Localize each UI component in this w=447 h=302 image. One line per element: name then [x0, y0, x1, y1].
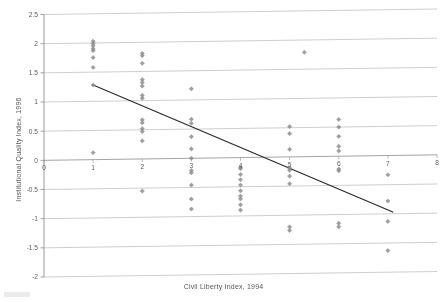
gridline [44, 272, 437, 278]
data-point [140, 121, 144, 125]
gridlines [44, 9, 437, 277]
data-point [91, 55, 95, 59]
data-point [238, 172, 242, 176]
scan-artifact [4, 292, 30, 297]
x-tick-label: 5 [288, 161, 292, 168]
y-tick-label: 0.5 [29, 128, 38, 135]
x-tick-label: 8 [435, 159, 439, 166]
data-point [288, 174, 292, 178]
data-point [238, 178, 242, 182]
data-point [140, 189, 144, 193]
data-point [337, 134, 341, 138]
tick-labels: 2.521.510.50-0.5-1-1.5-2012345678 [27, 11, 440, 281]
gridline [44, 67, 437, 73]
trend-line [93, 85, 393, 212]
data-point [386, 249, 390, 253]
x-tick-label: 7 [386, 160, 390, 167]
data-point [91, 151, 95, 155]
trendline [93, 85, 393, 212]
data-point [140, 139, 144, 143]
y-tick-label: 1 [34, 98, 38, 105]
scatter-chart: 2.521.510.50-0.5-1-1.5-2012345678 Civil … [0, 0, 447, 302]
axis-lines [41, 15, 438, 278]
data-points [91, 39, 390, 253]
data-point [189, 87, 193, 91]
data-point [91, 83, 95, 87]
data-point [386, 199, 390, 203]
data-point [189, 117, 193, 121]
plot-area: 2.521.510.50-0.5-1-1.5-2012345678 [0, 0, 447, 302]
data-point [288, 182, 292, 186]
data-point [189, 147, 193, 151]
data-point [302, 50, 306, 54]
x-tick-label: 1 [91, 164, 95, 171]
y-axis-title: Institutional Quality Index, 1996 [15, 80, 22, 220]
data-point [288, 131, 292, 135]
data-point [288, 228, 292, 232]
gridline [44, 213, 437, 219]
y-tick-label: -1 [32, 215, 38, 222]
x-tick-label: 0 [42, 164, 46, 171]
x-tick-label: 4 [239, 162, 243, 169]
gridline [44, 97, 437, 103]
data-point [288, 147, 292, 151]
y-tick-label: 2 [34, 40, 38, 47]
x-tick-label: 2 [140, 163, 144, 170]
data-point [189, 207, 193, 211]
data-point [337, 149, 341, 153]
x-tick-label: 6 [337, 160, 341, 167]
data-point [91, 65, 95, 69]
data-point [337, 125, 341, 129]
data-point [238, 208, 242, 212]
y-tick-label: 1.5 [29, 69, 38, 76]
data-point [189, 197, 193, 201]
data-point [189, 156, 193, 160]
data-point [238, 189, 242, 193]
data-point [140, 61, 144, 65]
data-point [189, 121, 193, 125]
x-tick-label: 3 [190, 162, 194, 169]
x-axis-title: Civil Liberty Index, 1994 [0, 283, 447, 290]
gridline [44, 242, 437, 248]
data-point [238, 197, 242, 201]
data-point [189, 135, 193, 139]
y-tick-label: 2.5 [29, 11, 38, 18]
data-point [337, 225, 341, 229]
data-point [386, 219, 390, 223]
gridline [44, 126, 437, 132]
gridline [44, 38, 437, 44]
data-point [189, 183, 193, 187]
data-point [386, 173, 390, 177]
y-tick-label: -2 [32, 273, 38, 280]
data-point [337, 117, 341, 121]
data-point [238, 203, 242, 207]
data-point [140, 84, 144, 88]
gridline [44, 9, 437, 15]
y-tick-label: -0.5 [27, 186, 39, 193]
y-tick-label: -1.5 [27, 244, 39, 251]
y-tick-label: 0 [34, 157, 38, 164]
data-point [337, 144, 341, 148]
data-point [140, 96, 144, 100]
